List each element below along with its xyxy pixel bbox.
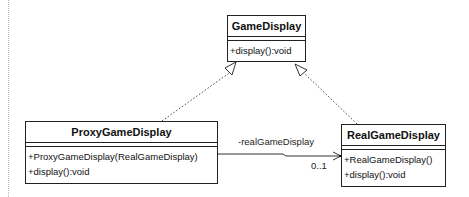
realization-arrowhead-real-icon bbox=[295, 64, 307, 76]
association-multiplicity-label: 0..1 bbox=[311, 160, 327, 171]
class-real-game-display[interactable]: RealGameDisplay +RealGameDisplay() +disp… bbox=[341, 124, 446, 187]
operations-compartment: +RealGameDisplay() +display():void bbox=[342, 150, 445, 185]
class-proxy-game-display[interactable]: ProxyGameDisplay +ProxyGameDisplay(RealG… bbox=[25, 121, 218, 184]
class-game-display[interactable]: GameDisplay +display():void bbox=[227, 15, 306, 62]
realization-line-real bbox=[304, 73, 357, 124]
class-name: ProxyGameDisplay bbox=[26, 122, 217, 143]
realization-line-proxy bbox=[162, 71, 232, 121]
operation: +display():void bbox=[28, 164, 215, 179]
association-line bbox=[217, 154, 340, 156]
operation: +ProxyGameDisplay(RealGameDisplay) bbox=[28, 149, 215, 164]
association-arrowhead-icon bbox=[333, 152, 341, 160]
canvas-left-border bbox=[8, 0, 9, 197]
operations-compartment: +ProxyGameDisplay(RealGameDisplay) +disp… bbox=[26, 147, 217, 182]
realization-arrowhead-proxy-icon bbox=[225, 62, 236, 75]
operation: +display():void bbox=[230, 43, 303, 58]
operation: +RealGameDisplay() bbox=[344, 152, 443, 167]
class-name: GameDisplay bbox=[228, 16, 305, 37]
operations-compartment: +display():void bbox=[228, 41, 305, 61]
association-role-label: -realGameDisplay bbox=[238, 136, 314, 147]
operation: +display():void bbox=[344, 167, 443, 182]
class-name: RealGameDisplay bbox=[342, 125, 445, 146]
